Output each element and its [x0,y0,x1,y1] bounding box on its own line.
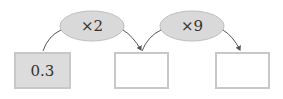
arrow-2-tail [142,30,161,51]
arrow-2-head [223,30,240,50]
arrow-1-tail [43,30,61,51]
arrow-1-head [123,30,141,50]
answer-box-2[interactable] [215,52,270,89]
operation-label-2: ×9 [160,11,224,41]
answer-box-1[interactable] [114,52,169,89]
start-value-box: 0.3 [14,52,71,89]
operation-label-1: ×2 [60,11,124,41]
